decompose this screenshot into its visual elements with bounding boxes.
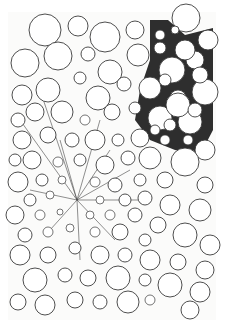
circle <box>197 177 213 193</box>
circle <box>112 134 124 146</box>
circle <box>117 77 131 91</box>
circle <box>90 227 100 237</box>
circle <box>53 157 63 167</box>
circle <box>29 14 61 46</box>
circle <box>10 245 30 265</box>
circle <box>24 194 36 206</box>
circle <box>51 101 73 123</box>
circle <box>44 42 72 70</box>
circle <box>129 102 141 114</box>
circle <box>108 178 122 192</box>
circle <box>157 172 173 188</box>
circle <box>91 246 109 264</box>
circle <box>192 79 218 105</box>
circle <box>68 16 88 36</box>
circle <box>26 103 44 121</box>
circle-in-stipple <box>166 93 190 117</box>
circle <box>40 247 56 263</box>
circle <box>23 268 47 292</box>
circle <box>23 151 41 169</box>
circle <box>57 209 63 215</box>
circle-in-stipple <box>171 26 179 34</box>
circle <box>90 177 100 187</box>
circle <box>139 274 151 286</box>
circle <box>104 104 120 120</box>
circle <box>181 301 199 319</box>
circle <box>138 191 152 205</box>
circle-in-stipple <box>188 103 202 117</box>
circle <box>58 176 66 184</box>
circle <box>190 282 210 302</box>
circle <box>131 129 149 147</box>
circle <box>6 206 24 224</box>
circle <box>74 72 86 84</box>
circle <box>58 268 72 282</box>
circle <box>85 130 105 150</box>
circle <box>67 292 83 308</box>
circle <box>198 30 218 50</box>
circle <box>96 196 104 204</box>
circle-in-stipple <box>150 125 160 135</box>
circle <box>139 147 161 169</box>
circle <box>145 295 155 305</box>
circle-in-stipple <box>159 74 171 86</box>
circle <box>121 151 135 165</box>
circle <box>139 77 161 99</box>
circle <box>90 22 120 52</box>
circle <box>160 135 170 145</box>
circle <box>18 228 32 242</box>
circle <box>171 148 199 176</box>
circle <box>10 294 26 310</box>
circle <box>96 156 114 174</box>
circle <box>11 113 25 127</box>
circle <box>74 154 86 166</box>
circle <box>81 47 95 61</box>
circle <box>126 21 144 39</box>
circle <box>158 273 182 297</box>
circle-in-stipple <box>175 40 195 60</box>
circle <box>200 235 220 255</box>
circle <box>106 266 130 290</box>
circle <box>36 174 48 186</box>
circle <box>9 154 21 166</box>
circle <box>66 224 74 232</box>
circle <box>112 224 128 240</box>
circle <box>43 227 53 237</box>
circle <box>35 295 55 315</box>
circle <box>86 211 94 219</box>
circle <box>140 250 160 270</box>
circle <box>117 291 139 313</box>
circle <box>93 295 107 309</box>
circle <box>13 131 31 149</box>
circle-in-stipple <box>155 30 165 40</box>
circle <box>46 191 54 199</box>
circle <box>128 208 142 222</box>
circle <box>105 210 115 220</box>
circle-in-stipple <box>192 67 208 83</box>
circle <box>40 127 56 143</box>
circle <box>8 172 28 192</box>
circle <box>69 242 81 254</box>
circle <box>65 133 79 147</box>
circle <box>170 254 186 270</box>
circle <box>154 42 166 54</box>
circle <box>160 195 180 215</box>
circle <box>150 217 166 233</box>
circle <box>189 199 211 221</box>
circle <box>80 270 96 286</box>
circle <box>36 78 60 102</box>
circle <box>11 49 39 77</box>
circle-in-stipple <box>164 119 176 131</box>
circle <box>12 85 32 105</box>
circle <box>80 115 90 125</box>
circle <box>134 174 146 186</box>
circle <box>173 223 197 247</box>
circle <box>139 234 151 246</box>
circle-in-stipple <box>183 135 193 145</box>
bubble-drawing <box>0 0 225 335</box>
circle <box>127 44 149 66</box>
circle <box>119 194 131 206</box>
circle <box>196 261 214 279</box>
circle <box>118 248 132 262</box>
circle <box>35 210 45 220</box>
